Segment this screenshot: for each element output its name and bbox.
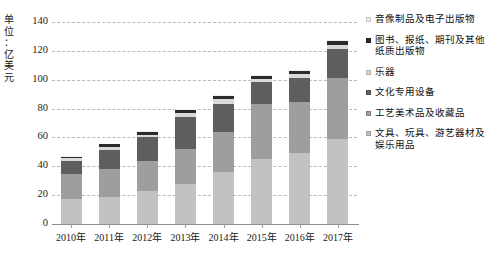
legend-swatch-icon bbox=[366, 90, 371, 95]
legend-swatch-icon bbox=[366, 17, 371, 22]
bar-segment[interactable] bbox=[137, 161, 158, 191]
legend-item[interactable]: 工艺美术品及收藏品 bbox=[366, 108, 488, 120]
bar-segment[interactable] bbox=[61, 199, 82, 224]
legend-item-label: 文化专用设备 bbox=[375, 87, 435, 99]
legend-item[interactable]: 文化专用设备 bbox=[366, 87, 488, 99]
x-axis-tick-mark bbox=[224, 224, 225, 228]
x-axis-tick-mark bbox=[147, 224, 148, 228]
bar-stack[interactable] bbox=[137, 131, 158, 224]
x-axis-line bbox=[52, 224, 359, 225]
bar-stack[interactable] bbox=[327, 40, 348, 224]
bar-segment[interactable] bbox=[289, 78, 310, 102]
legend-item-label: 图书、报纸、期刊及其他纸质出版物 bbox=[375, 35, 488, 58]
bar-segment[interactable] bbox=[99, 150, 120, 169]
bar-stack[interactable] bbox=[289, 70, 310, 224]
bar-segment[interactable] bbox=[99, 197, 120, 224]
bar-segment[interactable] bbox=[175, 117, 196, 149]
y-tick-label: 100 bbox=[8, 73, 48, 84]
bar-stack[interactable] bbox=[61, 156, 82, 224]
y-tick-label: 120 bbox=[8, 44, 48, 55]
bar-stack[interactable] bbox=[99, 144, 120, 224]
legend-swatch-icon bbox=[366, 111, 371, 116]
x-axis-tick-mark bbox=[185, 224, 186, 228]
legend-item[interactable]: 音像制品及电子出版物 bbox=[366, 14, 488, 26]
x-axis-tick-mark bbox=[262, 224, 263, 228]
y-tick-label: 140 bbox=[8, 15, 48, 26]
x-axis-tick-mark bbox=[300, 224, 301, 228]
bar-segment[interactable] bbox=[213, 104, 234, 132]
bar-segment[interactable] bbox=[175, 149, 196, 184]
bar-segment[interactable] bbox=[251, 104, 272, 159]
legend-item-label: 乐器 bbox=[375, 67, 395, 79]
bar-segment[interactable] bbox=[175, 184, 196, 224]
legend-item[interactable]: 图书、报纸、期刊及其他纸质出版物 bbox=[366, 35, 488, 58]
bar-segment[interactable] bbox=[251, 159, 272, 224]
bar-segment[interactable] bbox=[137, 191, 158, 224]
legend-item-label: 文具、玩具、游艺器材及娱乐用品 bbox=[375, 128, 488, 151]
bar-segment[interactable] bbox=[327, 49, 348, 79]
legend-swatch-icon bbox=[366, 38, 371, 43]
x-axis-tick-mark bbox=[71, 224, 72, 228]
y-tick-label: 0 bbox=[8, 217, 48, 228]
bar-segment[interactable] bbox=[213, 172, 234, 224]
legend-swatch-icon bbox=[366, 70, 371, 75]
y-axis-tick-labels: 140120100806040200 bbox=[4, 22, 48, 224]
x-axis-tick-mark bbox=[109, 224, 110, 228]
bar-segment[interactable] bbox=[251, 82, 272, 104]
y-tick-label: 20 bbox=[8, 188, 48, 199]
bar-segment[interactable] bbox=[61, 161, 82, 175]
bar-segment[interactable] bbox=[137, 137, 158, 160]
bar-segment[interactable] bbox=[327, 139, 348, 224]
legend-item[interactable]: 文具、玩具、游艺器材及娱乐用品 bbox=[366, 128, 488, 151]
bar-segment[interactable] bbox=[327, 78, 348, 139]
bar-segment[interactable] bbox=[61, 174, 82, 199]
legend-item-label: 工艺美术品及收藏品 bbox=[375, 108, 465, 120]
y-tick-label: 60 bbox=[8, 130, 48, 141]
bar-stack[interactable] bbox=[213, 95, 234, 224]
x-axis-tick-mark bbox=[338, 224, 339, 228]
bar-stack[interactable] bbox=[175, 109, 196, 224]
bars-container bbox=[52, 22, 357, 224]
stacked-bar-chart: 单位：亿美元 140120100806040200 2010年2011年2012… bbox=[0, 0, 490, 254]
bar-segment[interactable] bbox=[99, 169, 120, 197]
legend-item-label: 音像制品及电子出版物 bbox=[375, 14, 475, 26]
bar-segment[interactable] bbox=[289, 102, 310, 153]
bar-segment[interactable] bbox=[213, 132, 234, 172]
chart-legend: 音像制品及电子出版物图书、报纸、期刊及其他纸质出版物乐器文化专用设备工艺美术品及… bbox=[366, 14, 488, 160]
legend-item[interactable]: 乐器 bbox=[366, 67, 488, 79]
bar-segment[interactable] bbox=[289, 153, 310, 224]
legend-swatch-icon bbox=[366, 131, 371, 136]
x-axis-tick-labels: 2010年2011年2012年2013年2014年2015年2016年2017年 bbox=[52, 229, 357, 249]
y-tick-label: 80 bbox=[8, 102, 48, 113]
bar-stack[interactable] bbox=[251, 75, 272, 224]
x-tick-label: 2017年 bbox=[315, 229, 361, 244]
y-tick-label: 40 bbox=[8, 159, 48, 170]
